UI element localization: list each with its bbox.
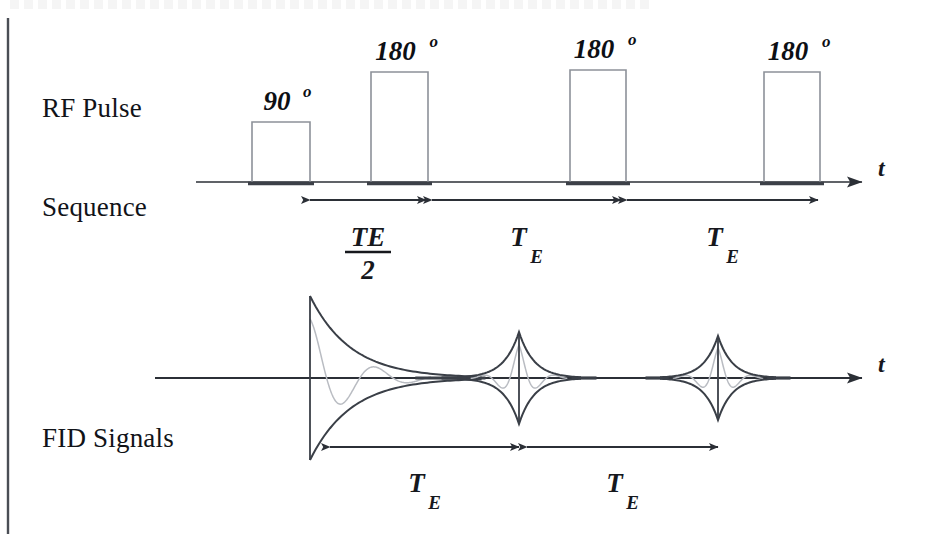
rf-pulse-group: 90o180o180o180o xyxy=(248,30,831,184)
refocus-pulse-1-outline xyxy=(371,72,428,182)
free-induction-decay-oscillation xyxy=(310,319,431,404)
rf-pulse-sequence-label: RF Pulse Sequence xyxy=(42,26,147,290)
excitation-pulse: 90o xyxy=(248,82,314,184)
refocus-pulse-1: 180o xyxy=(367,32,438,184)
refocus-pulse-1-angle-label: 180 xyxy=(375,36,416,66)
te-interval-2-subscript: E xyxy=(725,246,739,267)
excitation-pulse-outline xyxy=(252,122,310,182)
refocus-pulse-2-degree-symbol: o xyxy=(628,30,637,49)
fid-time-axis-label: t xyxy=(878,351,886,377)
te-interval-1: TE xyxy=(432,200,621,267)
fid-signals-label: FID Signals xyxy=(42,356,174,521)
fid-te-interval-2-label: T xyxy=(606,468,624,498)
mri-pulse-sequence-figure: RF Pulse Sequence FID Signals t 90o180o1… xyxy=(0,0,937,534)
fid-interval-group: TETE xyxy=(330,447,718,513)
spin-echo-1 xyxy=(442,332,597,424)
refocus-pulse-3-outline xyxy=(764,72,820,182)
te-half-interval-numerator: TE xyxy=(351,222,386,252)
free-induction-decay-upper-envelope xyxy=(310,296,482,377)
refocus-pulse-3-angle-label: 180 xyxy=(768,36,809,66)
rf-pulse-sequence-label-line2: Sequence xyxy=(42,191,147,224)
te-interval-2-label: T xyxy=(706,222,724,252)
rf-time-axis-label: t xyxy=(878,155,886,181)
fid-te-interval-2-subscript: E xyxy=(625,492,639,513)
te-interval-1-subscript: E xyxy=(529,246,543,267)
rf-interval-group: TE2TETE xyxy=(310,200,818,285)
fid-signals-row: t TETE xyxy=(155,296,886,513)
refocus-pulse-3-degree-symbol: o xyxy=(822,32,831,51)
rf-pulse-sequence-row: t 90o180o180o180o TE2TETE xyxy=(196,30,886,285)
excitation-pulse-degree-symbol: o xyxy=(303,82,312,101)
spin-echo-2 xyxy=(646,336,791,420)
fid-te-interval-1-subscript: E xyxy=(427,492,441,513)
te-interval-1-label: T xyxy=(510,222,528,252)
excitation-pulse-angle-label: 90 xyxy=(264,86,292,116)
refocus-pulse-2: 180o xyxy=(566,30,637,184)
fid-te-interval-1-label: T xyxy=(408,468,426,498)
refocus-pulse-1-degree-symbol: o xyxy=(430,32,439,51)
fid-signals-label-line1: FID Signals xyxy=(42,422,174,455)
refocus-pulse-2-angle-label: 180 xyxy=(574,34,615,64)
rf-pulse-sequence-label-line1: RF Pulse xyxy=(42,92,147,125)
fid-te-interval-1: TE xyxy=(330,447,519,513)
te-interval-2: TE xyxy=(627,200,818,267)
te-half-interval: TE2 xyxy=(310,200,426,285)
refocus-pulse-2-outline xyxy=(570,70,626,182)
refocus-pulse-3: 180o xyxy=(760,32,831,184)
fid-te-interval-2: TE xyxy=(527,447,718,513)
te-half-interval-denominator: 2 xyxy=(360,255,375,285)
clipped-header-text-remnant xyxy=(10,0,650,9)
